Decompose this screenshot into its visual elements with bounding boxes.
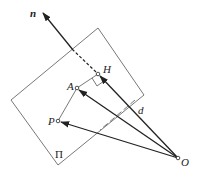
label-n: n xyxy=(30,7,36,19)
label-o: O xyxy=(181,156,189,168)
label-p: P xyxy=(47,115,55,127)
segment-pa xyxy=(58,88,77,121)
point-o xyxy=(176,156,180,160)
segment-ah xyxy=(77,74,98,88)
label-h: H xyxy=(102,63,112,75)
point-a xyxy=(75,86,79,90)
plane-distance-diagram: n H A P O d Π xyxy=(0,0,198,176)
point-h xyxy=(96,72,100,76)
normal-vector-n xyxy=(43,13,73,50)
plane-pi xyxy=(11,28,144,165)
point-p xyxy=(56,119,60,123)
label-d: d xyxy=(138,104,144,116)
label-plane: Π xyxy=(55,148,63,160)
vector-oa xyxy=(79,90,178,158)
label-a: A xyxy=(66,80,74,92)
normal-hidden-segment xyxy=(73,50,96,72)
